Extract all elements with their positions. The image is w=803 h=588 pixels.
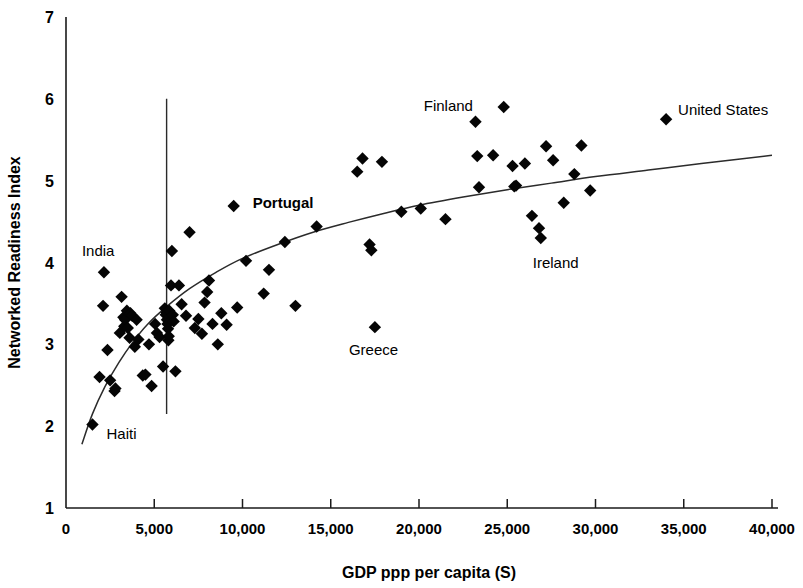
data-point-marker (227, 200, 239, 212)
data-point-marker (519, 157, 531, 169)
data-point-marker (506, 160, 518, 172)
data-point-marker (584, 184, 596, 196)
data-point-marker (215, 307, 227, 319)
data-point-marker (257, 287, 269, 299)
x-axis-tick-label: 25,000 (484, 520, 530, 537)
x-axis-tick-label: 30,000 (573, 520, 619, 537)
trend-curve (82, 155, 772, 444)
x-axis-tick-label: 35,000 (661, 520, 707, 537)
data-point-marker (97, 300, 109, 312)
data-point-marker (535, 232, 547, 244)
data-point-marker (220, 318, 232, 330)
data-point-marker (212, 338, 224, 350)
data-point-marker (206, 318, 218, 330)
data-point-marker (487, 149, 499, 161)
scatter-plot: 05,00010,00015,00020,00025,00030,00035,0… (0, 0, 803, 588)
data-point-marker (240, 255, 252, 267)
data-point-marker (169, 365, 181, 377)
data-point-marker (660, 113, 672, 125)
data-point-marker (469, 116, 481, 128)
data-point-marker (149, 318, 161, 330)
data-point-marker (263, 264, 275, 276)
x-axis-tick-label: 5,000 (135, 520, 173, 537)
data-point-marker (376, 156, 388, 168)
data-point-marker (201, 286, 213, 298)
x-axis-tick-label: 0 (62, 520, 70, 537)
data-point-marker (198, 296, 210, 308)
data-point-marker (540, 140, 552, 152)
x-axis-tick-label: 15,000 (308, 520, 354, 537)
data-point-marker (351, 165, 363, 177)
data-point-marker (180, 309, 192, 321)
point-label-ireland: Ireland (533, 254, 579, 271)
y-axis-tick-label: 2 (45, 418, 54, 435)
data-point-marker (356, 152, 368, 164)
data-points-layer (86, 101, 672, 431)
y-axis-tick-label: 5 (45, 173, 54, 190)
data-point-marker (310, 220, 322, 232)
data-point-marker (558, 197, 570, 209)
y-axis-tick-label: 1 (45, 500, 54, 517)
point-label-united-states: United States (678, 101, 768, 118)
y-axis-tick-label: 6 (45, 91, 54, 108)
data-point-marker (98, 266, 110, 278)
axis-titles-layer: GDP ppp per capita (S)Networked Readines… (6, 156, 516, 581)
y-axis-title: Networked Readiness Index (6, 156, 23, 369)
x-axis-title: GDP ppp per capita (S) (342, 564, 516, 581)
data-point-marker (533, 222, 545, 234)
point-label-haiti: Haiti (106, 425, 136, 442)
data-point-marker (175, 298, 187, 310)
data-point-marker (173, 279, 185, 291)
data-point-marker (115, 291, 127, 303)
point-label-portugal: Portugal (253, 194, 314, 211)
data-point-marker (526, 210, 538, 222)
data-point-marker (157, 360, 169, 372)
data-point-marker (143, 338, 155, 350)
data-point-marker (473, 181, 485, 193)
data-point-marker (203, 274, 215, 286)
axes-layer: 05,00010,00015,00020,00025,00030,00035,0… (45, 9, 795, 537)
x-axis-tick-label: 10,000 (220, 520, 266, 537)
data-point-marker (101, 344, 113, 356)
data-point-marker (166, 245, 178, 257)
data-point-marker (231, 301, 243, 313)
data-point-marker (369, 321, 381, 333)
data-point-marker (547, 154, 559, 166)
data-point-marker (279, 236, 291, 248)
trend-curve-layer (82, 155, 772, 444)
point-label-greece: Greece (349, 341, 398, 358)
data-point-marker (86, 418, 98, 430)
point-label-india: India (82, 242, 115, 259)
data-point-marker (145, 380, 157, 392)
x-axis-tick-label: 20,000 (396, 520, 442, 537)
data-point-marker (439, 213, 451, 225)
y-axis-tick-label: 3 (45, 336, 54, 353)
data-point-marker (93, 371, 105, 383)
chart-figure: 05,00010,00015,00020,00025,00030,00035,0… (0, 0, 803, 588)
data-point-marker (289, 300, 301, 312)
x-axis-tick-label: 40,000 (749, 520, 795, 537)
data-point-marker (471, 150, 483, 162)
point-label-finland: Finland (424, 97, 473, 114)
data-point-marker (575, 139, 587, 151)
y-axis-tick-label: 4 (45, 255, 54, 272)
data-point-marker (498, 101, 510, 113)
point-labels-layer: HaitiIndiaPortugalGreeceFinlandIrelandUn… (82, 97, 768, 442)
data-point-marker (183, 226, 195, 238)
y-axis-tick-label: 7 (45, 9, 54, 26)
